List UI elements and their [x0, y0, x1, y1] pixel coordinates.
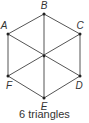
vertex-D — [79, 75, 82, 78]
vertex-A — [7, 33, 10, 36]
hexagon-diagram: ABCDEF — [0, 0, 89, 110]
edge-AB — [8, 14, 44, 34]
vertex-C — [79, 33, 82, 36]
vertex-F — [7, 75, 10, 78]
vertex-E — [43, 97, 46, 100]
edge-EF — [8, 76, 44, 98]
caption: 6 triangles — [0, 108, 89, 121]
center-point — [43, 55, 46, 58]
vertex-B — [43, 13, 46, 16]
vertex-label-D: D — [75, 80, 82, 91]
vertex-label-A: A — [0, 20, 8, 31]
vertex-label-C: C — [76, 20, 84, 31]
vertex-labels: ABCDEF — [0, 0, 84, 110]
edge-BC — [44, 14, 80, 34]
vertex-label-F: F — [6, 80, 13, 91]
vertex-label-B: B — [41, 0, 48, 11]
